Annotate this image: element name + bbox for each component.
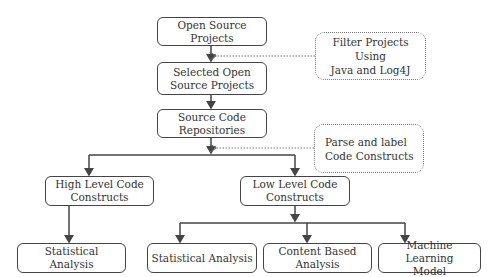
node-machine-learning-model: Machine Learning Model	[378, 243, 481, 273]
node-label: Content Based Analysis	[278, 245, 356, 271]
annotation-label: Parse and label Code Constructs	[325, 135, 414, 163]
node-content-based-analysis: Content Based Analysis	[263, 243, 372, 273]
annotation-filter-projects: Filter Projects Using Java and Log4J	[315, 32, 426, 80]
node-label: Statistical Analysis	[151, 252, 252, 265]
node-selected-projects: Selected Open Source Projects	[157, 62, 267, 95]
node-label: High Level Code Constructs	[55, 178, 144, 204]
annotation-parse-label: Parse and label Code Constructs	[314, 124, 424, 173]
node-label: Source Code Repositories	[178, 111, 246, 137]
node-high-level-constructs: High Level Code Constructs	[45, 176, 154, 206]
node-label: Selected Open Source Projects	[170, 66, 254, 92]
annotation-label: Filter Projects Using Java and Log4J	[316, 35, 425, 77]
node-open-source-projects: Open Source Projects	[157, 17, 267, 46]
node-label: Statistical Analysis	[21, 245, 122, 271]
node-label: Machine Learning Model	[382, 239, 477, 277]
node-statistical-analysis-low: Statistical Analysis	[147, 243, 257, 273]
node-label: Low Level Code Constructs	[253, 178, 338, 204]
node-statistical-analysis-high: Statistical Analysis	[17, 243, 126, 273]
node-source-code-repositories: Source Code Repositories	[157, 109, 267, 138]
node-low-level-constructs: Low Level Code Constructs	[240, 176, 350, 206]
node-label: Open Source Projects	[161, 19, 263, 45]
